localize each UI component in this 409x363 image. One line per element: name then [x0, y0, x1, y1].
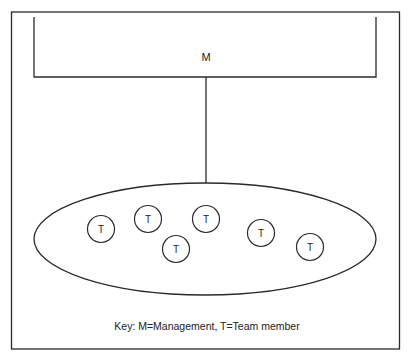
management-label: M [201, 51, 210, 63]
team-member-label: T [258, 228, 264, 239]
team-member-label: T [203, 214, 209, 225]
team-structure-diagram: M T T T T T T Key: M=Management, T=Team … [0, 0, 409, 363]
team-member-label: T [173, 244, 179, 255]
team-member-label: T [98, 224, 104, 235]
key-legend: Key: M=Management, T=Team member [114, 320, 300, 332]
team-member-label: T [145, 214, 151, 225]
team-member-label: T [307, 242, 313, 253]
